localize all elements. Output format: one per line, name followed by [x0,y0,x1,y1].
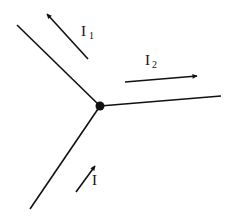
current-i1-label: I [81,23,86,39]
current-i1-subscript: 1 [89,30,94,41]
wire-right [100,96,221,106]
current-arrows: I1I2I [47,14,197,192]
wires [17,25,221,209]
wire-lower-left [30,106,100,209]
current-i2-subscript: 2 [152,59,157,70]
current-i2-label: I [145,52,150,68]
current-arrow-i2 [125,76,197,82]
current-i-label: I [92,172,97,188]
junction-diagram: I1I2I [0,0,233,219]
junction-node [96,102,105,111]
wire-upper-left [17,25,100,106]
